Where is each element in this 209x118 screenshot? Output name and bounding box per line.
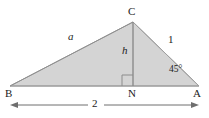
geometry-figure: B C A N a 1 h 45° 2 bbox=[0, 0, 209, 118]
triangle-shape bbox=[10, 22, 199, 86]
dimension-label-2: 2 bbox=[92, 98, 98, 109]
side-label-a: a bbox=[68, 31, 74, 42]
triangle-diagram-canvas bbox=[0, 0, 209, 118]
vertex-label-b: B bbox=[5, 88, 12, 99]
vertex-label-n: N bbox=[128, 88, 136, 99]
vertex-label-c: C bbox=[128, 6, 135, 17]
dimension-arrow-left-icon bbox=[10, 102, 18, 108]
angle-label-45: 45° bbox=[169, 65, 182, 75]
dimension-arrow-right-icon bbox=[191, 102, 199, 108]
vertex-label-a: A bbox=[193, 88, 201, 99]
altitude-label-h: h bbox=[122, 45, 128, 56]
side-label-one: 1 bbox=[168, 34, 174, 45]
